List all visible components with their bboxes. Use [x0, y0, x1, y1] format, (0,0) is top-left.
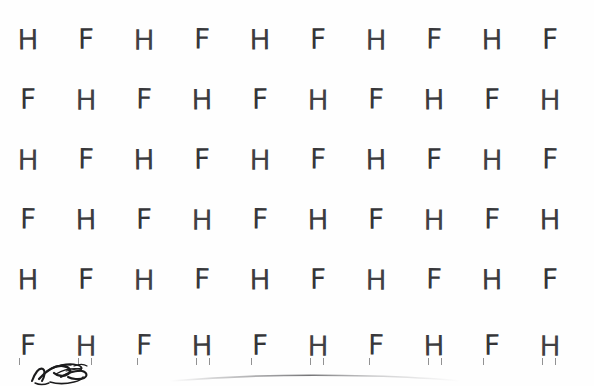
- glyph-row-3: HFHFHFHFHF: [0, 134, 594, 186]
- letter-f-r3c10: F: [535, 133, 565, 185]
- letter-h-r5c7: H: [361, 255, 391, 307]
- handwritten-scribble: [30, 360, 116, 386]
- letter-f-r2c3: F: [129, 73, 159, 125]
- letter-h-r4c8: H: [419, 195, 449, 247]
- remnant-mark-f-c5: [251, 358, 254, 365]
- letter-f-r4c7: F: [361, 194, 391, 246]
- letter-f-r5c2: F: [71, 254, 101, 306]
- letter-h-r3c3: H: [129, 134, 159, 186]
- letter-h-r1c3: H: [129, 15, 159, 67]
- letter-h-r1c1: H: [13, 14, 43, 66]
- letter-f-r3c2: F: [71, 133, 101, 185]
- remnant-mark-h-c10: [542, 358, 556, 365]
- letter-h-r1c9: H: [477, 14, 507, 66]
- letter-grid: HFHFHFHFHFFHFHFHFHFHHFHFHFHFHFFHFHFHFHFH…: [0, 0, 594, 360]
- letter-f-r1c4: F: [187, 13, 217, 65]
- remnant-mark-f-c7: [369, 358, 372, 365]
- letter-f-r4c3: F: [129, 194, 159, 246]
- letter-f-r5c6: F: [303, 254, 333, 306]
- glyph-row-4: FHFHFHFHFH: [0, 194, 594, 246]
- remnant-mark-h-c4: [196, 358, 210, 365]
- page-edge-shadow: [170, 371, 460, 385]
- letter-f-r2c1: F: [13, 74, 43, 126]
- letter-f-r3c8: F: [419, 134, 449, 186]
- letter-f-r3c4: F: [187, 134, 217, 186]
- letter-f-r5c8: F: [419, 253, 449, 305]
- remnant-mark-f-c9: [483, 358, 486, 365]
- letter-f-r3c6: F: [303, 133, 333, 185]
- letter-f-r1c10: F: [535, 14, 565, 66]
- letter-h-r2c4: H: [187, 74, 217, 126]
- letter-f-r2c5: F: [245, 74, 275, 126]
- letter-h-r3c1: H: [13, 135, 43, 187]
- glyph-row-1: HFHFHFHFHF: [0, 14, 594, 66]
- letter-h-r4c4: H: [187, 195, 217, 247]
- letter-h-r4c2: H: [71, 194, 101, 246]
- test-sheet-page: HFHFHFHFHF HFHFHFHFHFFHFHFHFHFHHFHFHFHFH…: [0, 0, 594, 386]
- letter-h-r4c6: H: [303, 194, 333, 246]
- letter-f-r5c4: F: [187, 253, 217, 305]
- remnant-mark-f-c1: [19, 358, 22, 365]
- letter-f-r2c7: F: [361, 73, 391, 125]
- letter-h-r4c10: H: [535, 194, 565, 246]
- letter-h-r1c7: H: [361, 15, 391, 67]
- letter-h-r2c2: H: [71, 75, 101, 127]
- letter-h-r3c7: H: [361, 134, 391, 186]
- letter-h-r5c5: H: [245, 254, 275, 306]
- letter-h-r5c3: H: [129, 255, 159, 307]
- letter-h-r1c5: H: [245, 14, 275, 66]
- letter-h-r2c6: H: [303, 75, 333, 127]
- letter-h-r5c9: H: [477, 254, 507, 306]
- remnant-mark-f-c3: [137, 358, 140, 365]
- letter-h-r3c5: H: [245, 135, 275, 187]
- letter-h-r5c1: H: [13, 254, 43, 306]
- letter-f-r5c10: F: [535, 254, 565, 306]
- letter-f-r1c2: F: [71, 14, 101, 66]
- glyph-row-5: HFHFHFHFHF: [0, 254, 594, 306]
- letter-h-r3c9: H: [477, 135, 507, 187]
- letter-h-r2c10: H: [535, 75, 565, 127]
- letter-f-r2c9: F: [477, 74, 507, 126]
- remnant-mark-h-c8: [428, 358, 442, 365]
- letter-f-r4c1: F: [13, 193, 43, 245]
- remnant-mark-h-c6: [310, 358, 324, 365]
- letter-f-r1c8: F: [419, 13, 449, 65]
- letter-f-r4c9: F: [477, 193, 507, 245]
- letter-f-r1c6: F: [303, 14, 333, 66]
- glyph-row-2: FHFHFHFHFH: [0, 74, 594, 126]
- letter-h-r2c8: H: [419, 74, 449, 126]
- letter-f-r4c5: F: [245, 193, 275, 245]
